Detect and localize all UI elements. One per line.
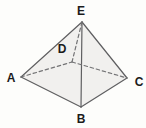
vertex-label-d: D	[58, 42, 67, 56]
vertex-label-c: C	[135, 75, 144, 89]
pyramid-figure: ABCDE	[0, 0, 146, 128]
vertex-label-a: A	[7, 71, 16, 85]
vertex-label-b: B	[77, 112, 86, 126]
vertex-label-e: E	[77, 4, 85, 18]
pyramid-svg: ABCDE	[0, 0, 146, 128]
pyramid-silhouette	[21, 22, 127, 107]
